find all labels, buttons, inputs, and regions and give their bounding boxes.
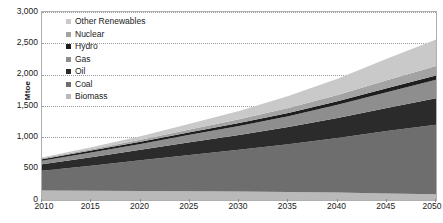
x-tick-label: 2050 (412, 201, 443, 211)
legend-label: Other Renewables (75, 17, 145, 26)
legend-swatch-icon (66, 57, 71, 62)
legend-label: Nuclear (75, 30, 104, 39)
y-tick-label: 1,000 (4, 132, 38, 141)
legend-label: Oil (75, 67, 85, 76)
legend-label: Gas (75, 55, 91, 64)
x-axis-tick-labels: 201020152020202520302035204020452050 (41, 201, 435, 221)
y-tick-label: 1,500 (4, 101, 38, 110)
x-tick-label: 2025 (169, 201, 209, 211)
x-tick-label: 2045 (366, 201, 406, 211)
x-tick-label: 2030 (218, 201, 258, 211)
legend-item-gas[interactable]: Gas (66, 54, 145, 66)
legend-item-oil[interactable]: Oil (66, 66, 145, 78)
legend-swatch-icon (66, 19, 71, 24)
x-tick-label: 2010 (24, 201, 64, 211)
legend-swatch-icon (66, 82, 71, 87)
legend-swatch-icon (66, 69, 71, 74)
y-axis-tick-labels: 05001,0001,5002,0002,5003,000 (0, 0, 38, 223)
legend-item-nuclear[interactable]: Nuclear (66, 29, 145, 41)
legend-item-coal[interactable]: Coal (66, 79, 145, 91)
legend-label: Hydro (75, 42, 98, 51)
chart-legend: Other RenewablesNuclearHydroGasOilCoalBi… (66, 16, 145, 103)
legend-swatch-icon (66, 32, 71, 37)
y-tick-label: 500 (4, 163, 38, 172)
legend-swatch-icon (66, 94, 71, 99)
legend-item-biomass[interactable]: Biomass (66, 91, 145, 103)
legend-swatch-icon (66, 44, 71, 49)
x-tick-label: 2015 (70, 201, 110, 211)
x-tick-label: 2020 (120, 201, 160, 211)
legend-item-hydro[interactable]: Hydro (66, 41, 145, 53)
x-tick-label: 2040 (317, 201, 357, 211)
legend-label: Biomass (75, 92, 108, 101)
x-tick-label: 2035 (267, 201, 307, 211)
y-tick-label: 2,000 (4, 69, 38, 78)
y-tick-label: 2,500 (4, 38, 38, 47)
y-tick-label: 3,000 (4, 7, 38, 16)
legend-item-other-renewables[interactable]: Other Renewables (66, 16, 145, 28)
stacked-area-chart: Mtoe 05001,0001,5002,0002,5003,000 20102… (0, 0, 443, 223)
legend-label: Coal (75, 80, 92, 89)
